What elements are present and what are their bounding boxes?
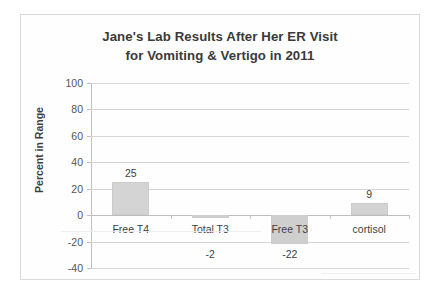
- y-tick-label: 80: [71, 103, 83, 115]
- y-tick-mark: [87, 109, 91, 110]
- y-tick-mark: [87, 189, 91, 190]
- category-label-free-t4: Free T4: [112, 223, 149, 235]
- y-tick-label: 100: [65, 77, 83, 89]
- chart-figure: Jane's Lab Results After Her ER Visit fo…: [20, 14, 420, 280]
- y-tick-mark: [87, 268, 91, 269]
- x-tick-mark: [91, 215, 92, 219]
- gridline--20: [91, 242, 409, 243]
- bar-value-label: -2: [206, 248, 215, 260]
- x-tick-mark: [409, 215, 410, 219]
- y-axis-title: Percent in Range: [33, 95, 47, 205]
- bar-value-label: -22: [282, 248, 297, 260]
- x-tick-mark: [171, 215, 172, 219]
- bar-free-t4: [112, 182, 149, 215]
- y-tick-mark: [87, 83, 91, 84]
- y-tick-label: 0: [77, 209, 83, 221]
- scan-artifact: [321, 273, 416, 274]
- y-tick-mark: [87, 162, 91, 163]
- gridline-80: [91, 109, 409, 110]
- x-tick-mark: [330, 215, 331, 219]
- y-tick-label: -40: [68, 262, 83, 274]
- gridline-40: [91, 162, 409, 163]
- gridline-60: [91, 136, 409, 137]
- plot-area: 100806040200-20-40 25-2-229 Free T4Total…: [91, 83, 409, 268]
- scan-artifact: [61, 231, 261, 232]
- gridline-100: [91, 83, 409, 84]
- category-label-cortisol: cortisol: [353, 223, 386, 235]
- bar-value-label: 25: [125, 167, 137, 179]
- y-tick-label: 60: [71, 130, 83, 142]
- y-axis-line: [91, 83, 92, 268]
- x-tick-mark: [250, 215, 251, 219]
- chart-title: Jane's Lab Results After Her ER Visit fo…: [21, 27, 419, 65]
- category-label-total-t3: Total T3: [192, 223, 229, 235]
- bar-cortisol: [351, 203, 388, 215]
- y-tick-label: 20: [71, 183, 83, 195]
- y-tick-mark: [87, 242, 91, 243]
- bar-value-label: 9: [366, 188, 372, 200]
- chart-title-line-2: for Vomiting & Vertigo in 2011: [21, 46, 419, 65]
- y-tick-mark: [87, 136, 91, 137]
- chart-title-line-1: Jane's Lab Results After Her ER Visit: [21, 27, 419, 46]
- y-tick-label: -20: [68, 236, 83, 248]
- gridline--40: [91, 268, 409, 269]
- y-tick-label: 40: [71, 156, 83, 168]
- category-label-free-t3: Free T3: [271, 223, 308, 235]
- bar-total-t3: [192, 215, 229, 218]
